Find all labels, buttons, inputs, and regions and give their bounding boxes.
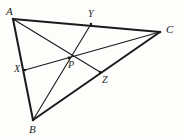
side-BC: [33, 32, 160, 120]
cevian-AZ: [13, 19, 100, 72]
cevian-point-label-X: X: [14, 64, 20, 74]
point-A-marker: [12, 18, 15, 21]
vertex-label-A: A: [6, 6, 13, 17]
point-Y-marker: [90, 23, 93, 26]
geometry-figure: A B C X Y Z P: [0, 0, 185, 138]
intersection-point-label-P: P: [68, 60, 74, 70]
vertex-label-C: C: [166, 24, 173, 35]
point-Z-marker: [99, 71, 102, 74]
point-B-marker: [32, 119, 35, 122]
cevian-CX: [25, 32, 160, 70]
cevian-point-label-Z: Z: [102, 75, 108, 85]
cevian-BY: [33, 24, 91, 120]
geometry-canvas: [0, 0, 185, 138]
side-AC: [13, 19, 160, 32]
point-C-marker: [159, 31, 162, 34]
cevian-point-label-Y: Y: [88, 9, 94, 19]
vertex-label-B: B: [29, 124, 36, 135]
point-X-marker: [24, 69, 27, 72]
